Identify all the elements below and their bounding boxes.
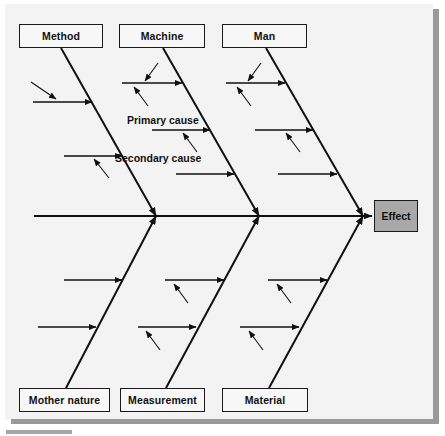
category-box-mother-nature[interactable]: Mother nature xyxy=(19,388,110,412)
bone-mother-nature xyxy=(66,216,156,388)
secondary-arrow-measurement-9 xyxy=(146,331,160,350)
secondary-arrow-measurement-8 xyxy=(174,284,188,303)
category-box-machine[interactable]: Machine xyxy=(119,24,205,48)
secondary-arrow-man-6 xyxy=(237,87,251,106)
fishbone-diagram-page: MethodMachineManMother natureMeasurement… xyxy=(0,0,445,436)
secondary-arrow-machine-3 xyxy=(134,87,148,106)
secondary-arrow-machine-4 xyxy=(183,133,197,152)
category-box-man[interactable]: Man xyxy=(222,24,307,48)
secondary-arrow-man-5 xyxy=(248,63,261,81)
bone-machine xyxy=(163,48,259,216)
category-box-method[interactable]: Method xyxy=(19,24,103,48)
bone-measurement xyxy=(166,216,259,388)
bone-man xyxy=(266,48,363,216)
category-box-measurement[interactable]: Measurement xyxy=(120,388,205,412)
secondary-cause-arrows xyxy=(31,63,300,350)
primary-cause-label: Primary cause xyxy=(127,114,199,126)
secondary-cause-label: Secondary cause xyxy=(115,152,201,164)
category-box-material[interactable]: Material xyxy=(222,388,308,412)
effect-box[interactable]: Effect xyxy=(374,200,418,232)
secondary-arrow-material-10 xyxy=(277,284,291,303)
secondary-arrow-method-1 xyxy=(94,159,109,178)
secondary-arrow-man-7 xyxy=(286,133,300,152)
bone-method xyxy=(61,48,156,216)
bone-material xyxy=(269,216,363,388)
category-bones-group xyxy=(61,48,363,388)
secondary-arrow-machine-2 xyxy=(145,63,158,81)
secondary-arrow-material-11 xyxy=(249,331,263,350)
secondary-arrow-method-0 xyxy=(31,82,56,99)
